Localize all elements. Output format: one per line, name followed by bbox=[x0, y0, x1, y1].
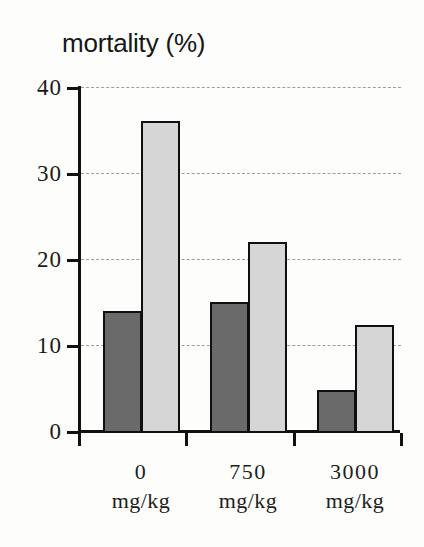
bar-light-3000 bbox=[355, 325, 394, 433]
x-tick-mark-3 bbox=[400, 433, 403, 446]
x-axis-label-unit: mg/kg bbox=[188, 486, 308, 516]
bar-dark-3000 bbox=[317, 390, 356, 433]
x-axis-label-value: 3000 bbox=[295, 458, 415, 486]
bar-dark-0 bbox=[103, 311, 142, 433]
bar-light-750 bbox=[248, 242, 287, 433]
x-axis-label-unit: mg/kg bbox=[81, 486, 201, 516]
x-axis-label-value: 750 bbox=[188, 458, 308, 486]
bars-group bbox=[0, 0, 424, 432]
x-axis-label-750: 750mg/kg bbox=[188, 458, 308, 516]
bar-dark-750 bbox=[210, 302, 249, 433]
x-tick-mark-1 bbox=[185, 433, 188, 446]
x-tick-mark-0 bbox=[78, 433, 81, 446]
x-axis-label-0: 0mg/kg bbox=[81, 458, 201, 516]
bar-chart-figure: mortality (%) 403020100 0mg/kg750mg/kg30… bbox=[0, 0, 424, 547]
bar-light-0 bbox=[141, 121, 180, 433]
x-axis-label-unit: mg/kg bbox=[295, 486, 415, 516]
x-tick-mark-2 bbox=[293, 433, 296, 446]
x-axis-label-value: 0 bbox=[81, 458, 201, 486]
x-axis-label-3000: 3000mg/kg bbox=[295, 458, 415, 516]
